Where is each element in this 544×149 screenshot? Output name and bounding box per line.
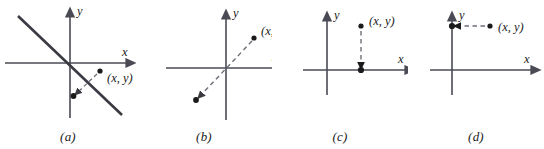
panel-d-image-point (449, 23, 455, 29)
panel-b: x y (x, y) (b) (136, 0, 272, 149)
panel-d-diagram: x y (x, y) (408, 0, 544, 149)
panel-b-diagram: x y (x, y) (136, 0, 272, 149)
panel-c: x y (x, y) (c) (272, 0, 408, 149)
panel-d-x-axis-label: x (523, 52, 530, 66)
panel-c-point-label: (x, y) (369, 14, 395, 28)
panel-a: x y (x, y) (a) (0, 0, 136, 149)
panel-c-image-point (358, 67, 364, 73)
panel-a-diagram: x y (x, y) (0, 0, 136, 149)
panel-d-caption: (d) (408, 129, 544, 145)
panel-a-x-axis-label: x (121, 45, 128, 59)
panel-d: x y (x, y) (d) (408, 0, 544, 149)
panel-d-y-axis-label: y (457, 8, 465, 22)
panel-b-point-xy (251, 35, 256, 40)
panel-a-caption: (a) (0, 129, 136, 145)
panel-a-y-axis-label: y (75, 4, 83, 18)
panel-c-point-xy (358, 23, 363, 28)
panel-c-diagram: x y (x, y) (272, 0, 408, 149)
panel-a-point-label: (x, y) (107, 71, 133, 85)
panel-b-caption: (b) (136, 129, 272, 145)
panel-c-x-axis-label: x (397, 52, 404, 66)
panel-c-y-axis-label: y (332, 8, 340, 22)
panel-c-caption: (c) (272, 129, 408, 145)
panel-b-image-point (193, 97, 199, 103)
panel-b-point-label: (x, y) (261, 24, 272, 38)
panel-d-point-xy (487, 23, 492, 28)
panel-a-point-xy (97, 68, 102, 73)
panel-b-y-axis-label: y (231, 6, 239, 20)
panel-a-image-point (71, 93, 77, 99)
panel-d-point-label: (x, y) (498, 20, 524, 34)
figure-four-panel-reflections: x y (x, y) (a) (0, 0, 544, 149)
